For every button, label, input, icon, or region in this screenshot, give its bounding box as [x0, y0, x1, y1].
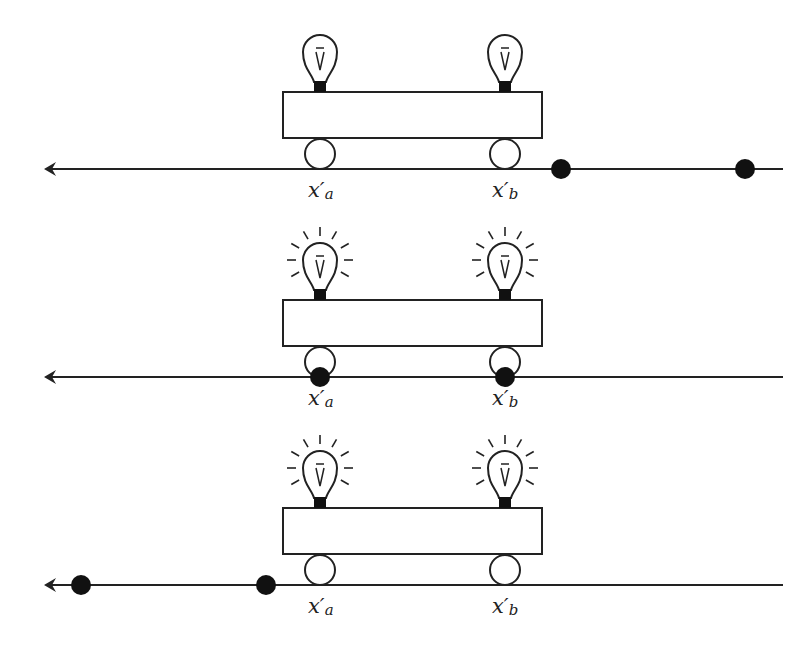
label-prime: ′ [504, 178, 509, 202]
light-bulb-icon [472, 435, 538, 508]
position-label: x′a [308, 178, 334, 202]
light-bulb-icon [287, 435, 353, 508]
light-ray [291, 244, 299, 249]
light-ray [332, 439, 337, 447]
train-car [283, 300, 542, 346]
flash-point [256, 575, 276, 595]
light-ray [304, 439, 309, 447]
light-ray [476, 272, 484, 277]
diagram-canvas [0, 0, 811, 657]
light-ray [526, 244, 534, 249]
light-ray [476, 452, 484, 457]
bulb-glass [488, 35, 522, 82]
label-prime: ′ [320, 594, 325, 618]
light-ray [517, 231, 522, 239]
light-ray [341, 272, 349, 277]
flash-point [310, 367, 330, 387]
label-variable: x [492, 594, 504, 618]
light-ray [291, 480, 299, 485]
train-car [283, 92, 542, 138]
light-bulb-icon [488, 35, 522, 92]
wheel [305, 555, 335, 585]
position-label: x′a [308, 386, 334, 410]
bulb-base [314, 497, 326, 508]
bulb-glass [488, 451, 522, 498]
light-ray [341, 480, 349, 485]
position-label: x′a [308, 594, 334, 618]
wheel [490, 139, 520, 169]
label-subscript: a [325, 185, 334, 203]
light-ray [489, 231, 494, 239]
label-subscript: a [325, 601, 334, 619]
label-variable: x [308, 386, 320, 410]
light-ray [526, 272, 534, 277]
label-variable: x [492, 386, 504, 410]
label-prime: ′ [320, 178, 325, 202]
light-ray [489, 439, 494, 447]
wheel [490, 555, 520, 585]
light-ray [341, 452, 349, 457]
light-ray [526, 480, 534, 485]
label-variable: x [492, 178, 504, 202]
position-label: x′b [492, 386, 518, 410]
bulb-base [314, 81, 326, 92]
flash-point [551, 159, 571, 179]
bulb-glass [303, 243, 337, 290]
light-ray [332, 231, 337, 239]
label-prime: ′ [504, 594, 509, 618]
light-bulb-icon [303, 35, 337, 92]
light-ray [517, 439, 522, 447]
panel-3 [44, 435, 783, 595]
light-ray [304, 231, 309, 239]
bulb-base [499, 81, 511, 92]
light-bulb-icon [287, 227, 353, 300]
label-variable: x [308, 594, 320, 618]
bulb-base [499, 497, 511, 508]
light-ray [476, 480, 484, 485]
bulb-base [314, 289, 326, 300]
label-prime: ′ [320, 386, 325, 410]
bulb-base [499, 289, 511, 300]
flash-point [495, 367, 515, 387]
label-subscript: b [509, 185, 519, 203]
bulb-glass [488, 243, 522, 290]
light-ray [526, 452, 534, 457]
flash-point [735, 159, 755, 179]
light-ray [291, 452, 299, 457]
bulb-glass [303, 451, 337, 498]
panel-2 [44, 227, 783, 387]
label-variable: x [308, 178, 320, 202]
light-ray [476, 244, 484, 249]
flash-point [71, 575, 91, 595]
position-label: x′b [492, 594, 518, 618]
train-car [283, 508, 542, 554]
label-subscript: b [509, 393, 519, 411]
position-label: x′b [492, 178, 518, 202]
label-subscript: b [509, 601, 519, 619]
light-ray [341, 244, 349, 249]
light-ray [291, 272, 299, 277]
bulb-glass [303, 35, 337, 82]
light-bulb-icon [472, 227, 538, 300]
label-subscript: a [325, 393, 334, 411]
wheel [305, 139, 335, 169]
label-prime: ′ [504, 386, 509, 410]
panel-1 [44, 35, 783, 179]
